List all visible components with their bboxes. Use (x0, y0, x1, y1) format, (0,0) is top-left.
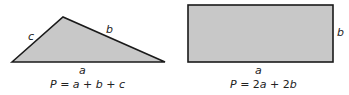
triangle-label-b: b (106, 23, 113, 36)
formula-term: 2 (283, 78, 290, 91)
rectangle-label-b: b (337, 26, 344, 39)
triangle-figure: c b a P = a + b + c (12, 17, 165, 91)
formula-term: b (290, 78, 297, 91)
triangle-label-a: a (79, 64, 86, 77)
formula-term: 2 (253, 78, 260, 91)
triangle-label-c: c (28, 30, 34, 43)
rectangle-figure: b a P = 2a + 2b (188, 5, 344, 91)
formula-eq: = (237, 78, 253, 91)
rectangle-formula: P = 2a + 2b (230, 78, 297, 91)
rectangle-shape (188, 5, 333, 62)
formula-term: b (96, 78, 103, 91)
formula-term: + (103, 78, 119, 91)
triangle-shape (12, 17, 165, 62)
formula-term: c (119, 78, 125, 91)
triangle-formula: P = a + b + c (50, 78, 125, 91)
formula-eq: = (57, 78, 73, 91)
formula-term: + (267, 78, 283, 91)
rectangle-label-a: a (255, 64, 262, 77)
perimeter-diagram: c b a P = a + b + c b a P = 2a + 2b (0, 0, 349, 95)
formula-term: + (80, 78, 96, 91)
